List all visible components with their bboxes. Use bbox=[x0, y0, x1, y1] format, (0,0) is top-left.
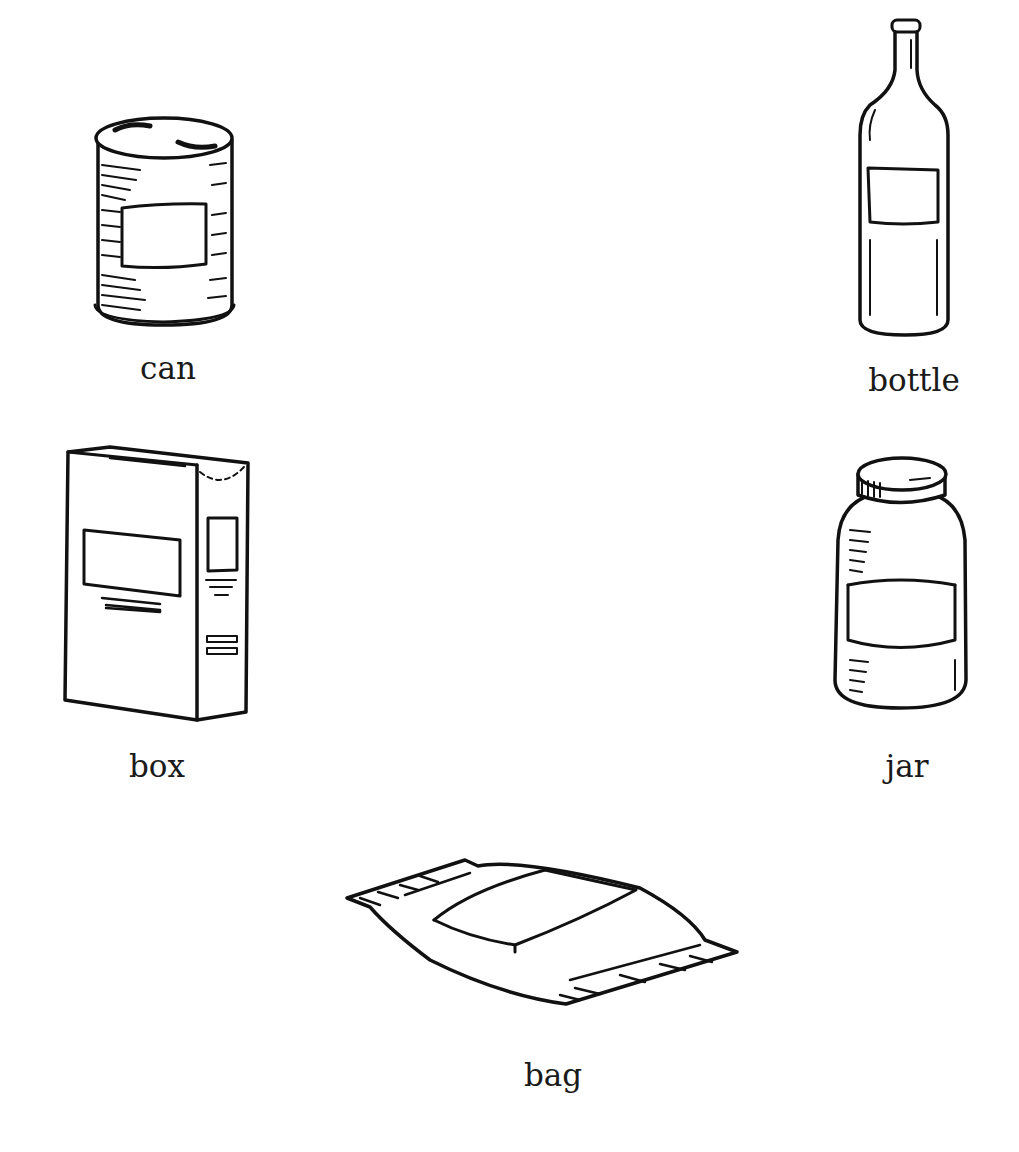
bag-label: bag bbox=[524, 1057, 582, 1093]
box-illustration bbox=[0, 0, 1019, 1152]
can-illustration bbox=[0, 0, 1019, 1152]
bag-illustration bbox=[0, 0, 1019, 1152]
jar-label: jar bbox=[886, 748, 929, 784]
can-label: can bbox=[140, 350, 196, 386]
box-label: box bbox=[129, 748, 185, 784]
jar-illustration bbox=[0, 0, 1019, 1152]
jar-item: jar bbox=[0, 0, 1019, 1152]
bag-item: bag bbox=[0, 0, 1019, 1152]
bottle-item: bottle bbox=[0, 0, 1019, 1152]
can-item: can bbox=[0, 0, 1019, 1152]
bottle-label: bottle bbox=[868, 362, 960, 398]
bottle-illustration bbox=[0, 0, 1019, 1152]
box-item: box bbox=[0, 0, 1019, 1152]
